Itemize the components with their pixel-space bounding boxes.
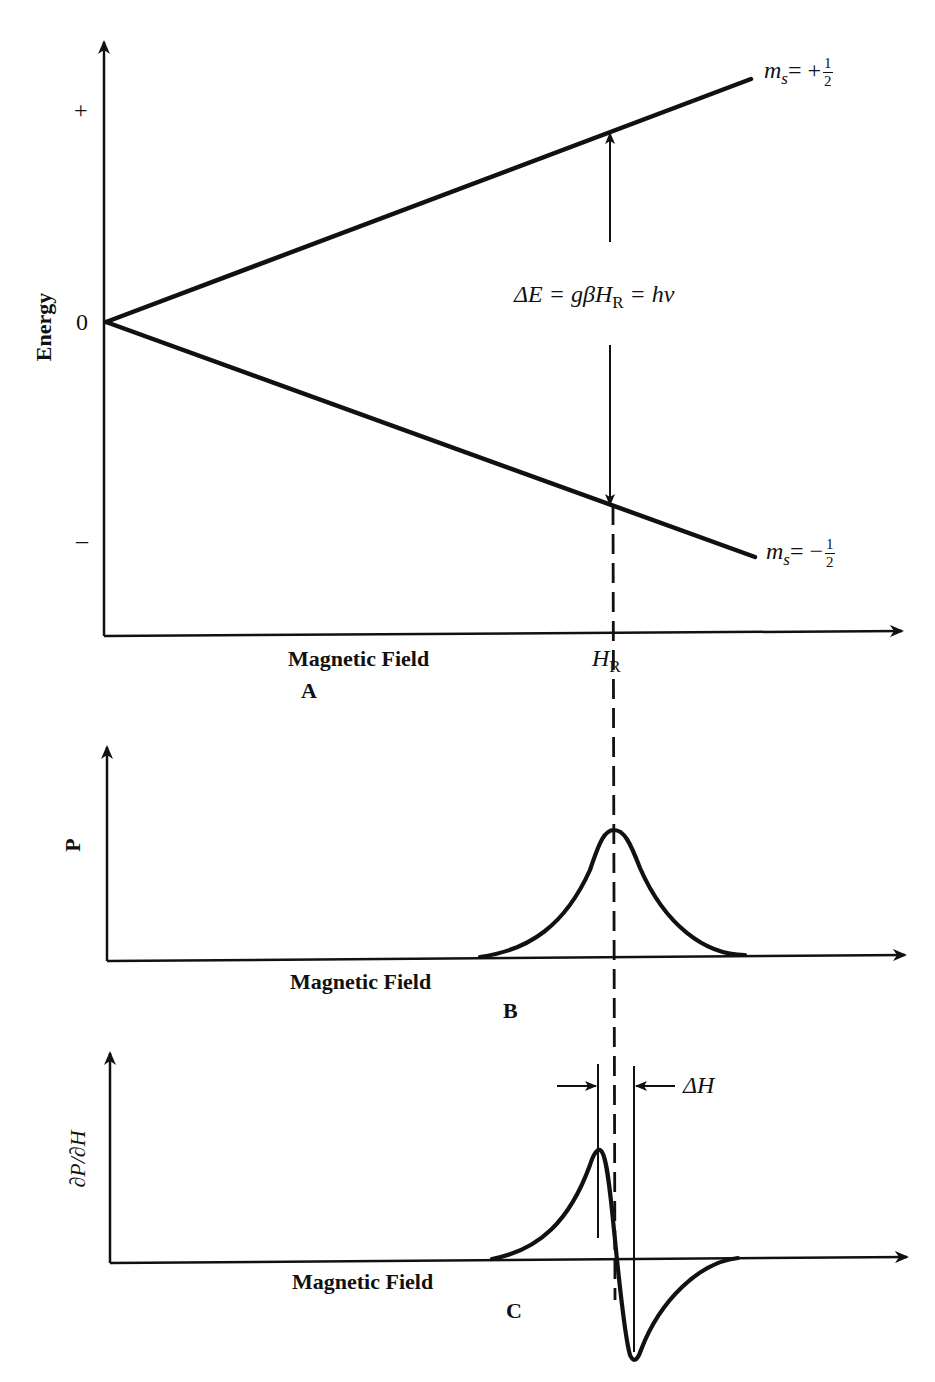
- resonance-field-dashed-line: [613, 505, 615, 1300]
- panel-b-x-axis: [107, 955, 905, 961]
- energy-axis-label: Energy: [33, 291, 55, 363]
- lower-level-denominator: 2: [825, 554, 835, 570]
- upper-level-fraction: 12: [823, 56, 833, 89]
- panel-c-y-axis-label: ∂P/∂H: [67, 1119, 89, 1199]
- resonance-field-subscript: R: [609, 657, 620, 676]
- upper-level-subscript: s: [781, 69, 788, 88]
- upper-level-denominator: 2: [823, 73, 833, 89]
- panel-b-y-axis-label: P: [62, 830, 84, 860]
- g-beta-h-term: = gβH: [543, 281, 612, 307]
- panel-b-x-axis-label: Magnetic Field: [290, 971, 431, 993]
- lower-level-numerator: 1: [825, 537, 835, 554]
- energy-zero-tick: 0: [76, 310, 88, 334]
- delta-e-term: ΔE: [514, 281, 543, 307]
- upper-level-label: ms= +12: [764, 56, 833, 89]
- h-nu-term: = hν: [624, 281, 675, 307]
- linewidth-label: ΔH: [683, 1073, 714, 1097]
- panel-c-x-axis-label: Magnetic Field: [292, 1271, 433, 1293]
- resonance-field-label: HR: [592, 646, 621, 670]
- upper-level-symbol: m: [764, 57, 781, 83]
- energy-plus-tick: +: [74, 98, 88, 122]
- lower-level-label: ms= −12: [766, 537, 835, 570]
- panel-a-x-axis-label: Magnetic Field: [288, 648, 429, 670]
- lower-energy-level-line: [106, 322, 755, 557]
- panel-b-letter: B: [503, 1000, 518, 1022]
- lower-level-equals: = −: [790, 538, 823, 564]
- transition-equation: ΔE = gβHR = hν: [512, 280, 676, 308]
- epr-diagram-canvas: [0, 0, 935, 1382]
- panel-b: [107, 747, 905, 961]
- upper-level-numerator: 1: [823, 56, 833, 73]
- lower-level-symbol: m: [766, 538, 783, 564]
- panel-c-letter: C: [506, 1300, 522, 1322]
- upper-level-equals: = +: [788, 57, 821, 83]
- lower-level-subscript: s: [783, 550, 790, 569]
- panel-a-x-axis: [104, 631, 902, 636]
- energy-minus-tick: –: [76, 528, 88, 552]
- absorption-curve: [480, 830, 745, 957]
- resonance-field-symbol: H: [592, 645, 609, 671]
- equation-subscript-r: R: [612, 293, 623, 312]
- panel-c-x-axis: [110, 1257, 907, 1263]
- panel-a-letter: A: [301, 680, 317, 702]
- lower-level-fraction: 12: [825, 537, 835, 570]
